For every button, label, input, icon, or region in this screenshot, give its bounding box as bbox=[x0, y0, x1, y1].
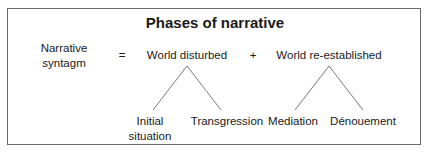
node-denouement: Dénouement bbox=[330, 114, 396, 129]
node-initial-situation: Initial situation bbox=[129, 114, 172, 144]
node-transgression: Transgression bbox=[191, 114, 263, 129]
branch-world-disturbed bbox=[153, 66, 221, 110]
node-line-2: situation bbox=[129, 129, 172, 144]
branch-world-reestablished bbox=[295, 66, 363, 110]
node-line-1: Initial bbox=[129, 114, 172, 129]
tree-branches bbox=[0, 0, 430, 154]
node-mediation: Mediation bbox=[268, 114, 318, 129]
